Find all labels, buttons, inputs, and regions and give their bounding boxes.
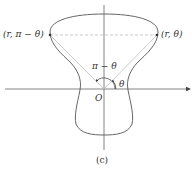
caption: (c) (96, 155, 108, 165)
polar-symmetry-diagram: (r, π − θ) (r, θ) π − θ θ O (c) (0, 0, 192, 169)
point-left-label: (r, π − θ) (3, 29, 44, 39)
angle-supplement-label: π − θ (91, 61, 117, 71)
origin-label: O (95, 93, 103, 103)
point-right-label: (r, θ) (161, 29, 183, 39)
angle-theta-label: θ (119, 79, 125, 89)
point-r-pi-minus-theta (49, 34, 52, 37)
point-r-theta (156, 34, 159, 37)
